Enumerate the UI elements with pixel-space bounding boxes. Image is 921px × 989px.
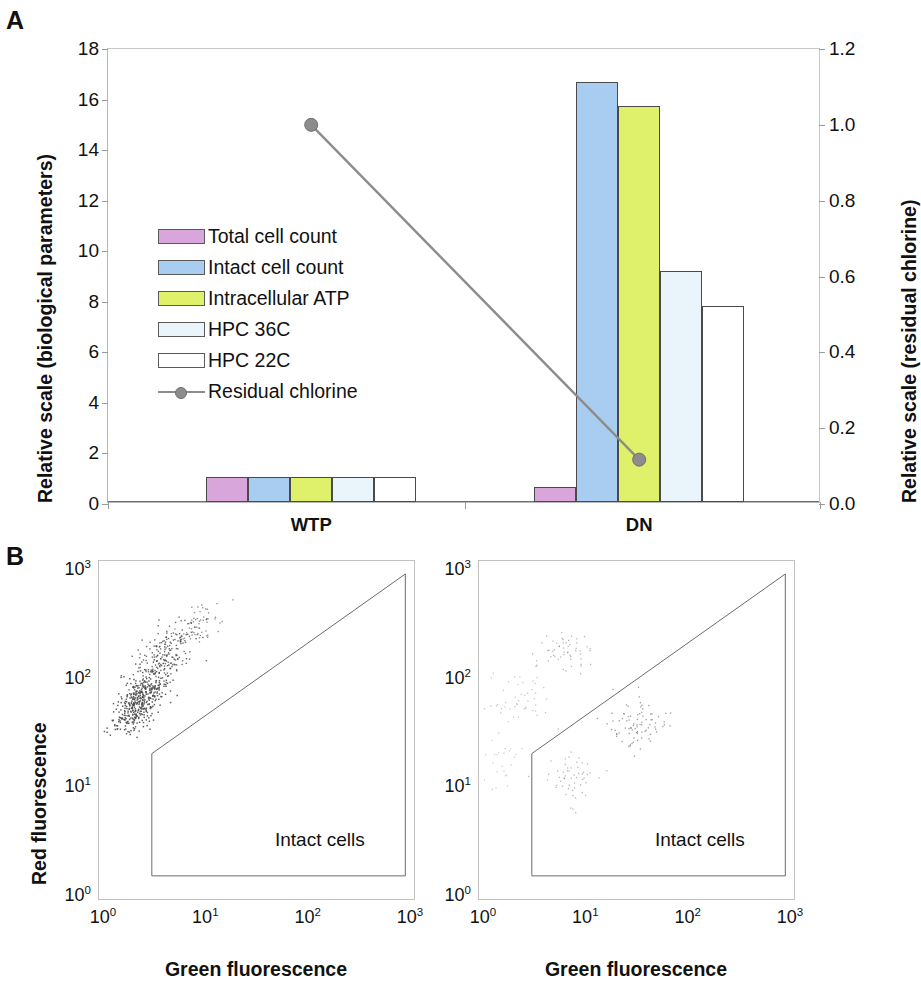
bar-dn-total-cell-count bbox=[534, 487, 576, 502]
scatter-dn-canvas bbox=[479, 561, 796, 901]
y-tick-mark-right bbox=[819, 125, 825, 126]
y-tick-label-right: 0.8 bbox=[829, 190, 855, 212]
legend-item-residual-chlorine: Residual chlorine bbox=[158, 376, 358, 407]
legend-item-hpc-22c: HPC 22C bbox=[158, 345, 358, 376]
scatter-y-tick-label: 102 bbox=[445, 667, 471, 689]
y-tick-mark-left bbox=[102, 453, 108, 454]
legend-label: HPC 36C bbox=[208, 318, 290, 341]
y-tick-mark-left bbox=[102, 352, 108, 353]
y-tick-label-left: 2 bbox=[88, 442, 99, 464]
y-tick-mark-left bbox=[102, 150, 108, 151]
y-tick-mark-right bbox=[819, 428, 825, 429]
bar-dn-intact-cell-count bbox=[576, 82, 618, 502]
bar-wtp-hpc-22c bbox=[374, 477, 416, 502]
scatter-points bbox=[104, 599, 234, 738]
legend-color-swatch bbox=[158, 291, 205, 306]
y-tick-mark-left bbox=[102, 100, 108, 101]
y-tick-label-left: 16 bbox=[78, 89, 99, 111]
panel-a-left-axis-title: Relative scale (biological parameters) bbox=[34, 154, 57, 503]
y-tick-mark-left bbox=[102, 49, 108, 50]
scatter-points bbox=[484, 632, 671, 813]
bar-dn-hpc-36c bbox=[660, 271, 702, 502]
scatter-y-tick-label: 100 bbox=[65, 884, 91, 906]
scatter-y-tick-label: 101 bbox=[445, 775, 471, 797]
legend-item-hpc-36c: HPC 36C bbox=[158, 314, 358, 345]
residual-chlorine-marker bbox=[305, 118, 318, 131]
legend-line-swatch bbox=[158, 384, 205, 399]
panel-a: A Relative scale (biological parameters)… bbox=[0, 0, 905, 545]
y-tick-label-left: 18 bbox=[78, 38, 99, 60]
scatter-plot-dn: Intact cells 100101102103 100101102103 bbox=[478, 560, 795, 900]
y-tick-label-left: 4 bbox=[88, 392, 99, 414]
legend-label: HPC 22C bbox=[208, 349, 290, 372]
legend-color-swatch bbox=[158, 353, 205, 368]
y-tick-mark-left bbox=[102, 403, 108, 404]
scatter-wtp-x-axis-title: Green fluorescence bbox=[165, 958, 347, 981]
y-tick-mark-right bbox=[819, 49, 825, 50]
scatter-y-tick-label: 100 bbox=[445, 884, 471, 906]
y-tick-label-left: 8 bbox=[88, 291, 99, 313]
scatter-x-tick-label: 102 bbox=[294, 906, 320, 928]
panel-b: B Red fluorescence Intact cells 10010110… bbox=[0, 540, 905, 989]
category-separator-tick bbox=[108, 502, 109, 509]
panel-a-legend: Total cell countIntact cell countIntrace… bbox=[158, 221, 358, 407]
scatter-y-tick-label: 103 bbox=[65, 558, 91, 580]
panel-a-plot-area: 024681012141618 0.00.20.40.60.81.01.2 WT… bbox=[107, 48, 820, 503]
panel-b-letter: B bbox=[6, 542, 24, 571]
bar-wtp-hpc-36c bbox=[332, 477, 374, 502]
y-tick-label-right: 0.6 bbox=[829, 266, 855, 288]
category-separator-tick bbox=[465, 502, 466, 509]
legend-item-total-cell-count: Total cell count bbox=[158, 221, 358, 252]
y-tick-mark-left bbox=[102, 302, 108, 303]
category-label-wtp: WTP bbox=[291, 514, 332, 536]
y-tick-label-right: 0.4 bbox=[829, 341, 855, 363]
scatter-wtp-canvas bbox=[99, 561, 416, 901]
panel-a-letter: A bbox=[6, 6, 24, 35]
legend-item-intact-cell-count: Intact cell count bbox=[158, 252, 358, 283]
scatter-x-tick-label: 103 bbox=[777, 906, 803, 928]
scatter-x-tick-label: 101 bbox=[192, 906, 218, 928]
y-tick-mark-right bbox=[819, 201, 825, 202]
y-tick-label-right: 0.0 bbox=[829, 493, 855, 515]
y-tick-label-left: 10 bbox=[78, 240, 99, 262]
category-separator-tick bbox=[820, 502, 821, 509]
legend-label: Residual chlorine bbox=[208, 380, 358, 403]
y-tick-label-left: 12 bbox=[78, 190, 99, 212]
bar-dn-hpc-22c bbox=[702, 306, 744, 502]
y-tick-label-right: 1.2 bbox=[829, 38, 855, 60]
scatter-dn-gate-label: Intact cells bbox=[655, 829, 745, 851]
y-tick-mark-left bbox=[102, 251, 108, 252]
y-tick-mark-right bbox=[819, 277, 825, 278]
legend-color-swatch bbox=[158, 260, 205, 275]
scatter-left-y-axis-title: Red fluorescence bbox=[28, 722, 51, 885]
legend-color-swatch bbox=[158, 322, 205, 337]
y-tick-label-right: 1.0 bbox=[829, 114, 855, 136]
scatter-x-tick-label: 102 bbox=[674, 906, 700, 928]
y-tick-mark-right bbox=[819, 352, 825, 353]
scatter-y-tick-label: 102 bbox=[65, 667, 91, 689]
scatter-x-tick-label: 100 bbox=[90, 906, 116, 928]
scatter-plot-wtp: Intact cells 100101102103 100101102103 bbox=[98, 560, 415, 900]
legend-color-swatch bbox=[158, 229, 205, 244]
y-tick-label-left: 0 bbox=[88, 493, 99, 515]
y-tick-mark-left bbox=[102, 201, 108, 202]
scatter-x-tick-label: 100 bbox=[470, 906, 496, 928]
bar-wtp-intracellular-atp bbox=[290, 477, 332, 502]
bar-wtp-total-cell-count bbox=[206, 477, 248, 502]
scatter-dn-x-axis-title: Green fluorescence bbox=[545, 958, 727, 981]
legend-label: Total cell count bbox=[208, 225, 337, 248]
scatter-x-tick-label: 101 bbox=[572, 906, 598, 928]
legend-item-intracellular-atp: Intracellular ATP bbox=[158, 283, 358, 314]
legend-label: Intracellular ATP bbox=[208, 287, 350, 310]
scatter-y-tick-label: 101 bbox=[65, 775, 91, 797]
panel-a-right-axis-title: Relative scale (residual chlorine) bbox=[898, 200, 921, 503]
category-label-dn: DN bbox=[626, 514, 653, 536]
scatter-y-tick-label: 103 bbox=[445, 558, 471, 580]
legend-label: Intact cell count bbox=[208, 256, 344, 279]
y-tick-label-right: 0.2 bbox=[829, 417, 855, 439]
y-tick-label-left: 14 bbox=[78, 139, 99, 161]
bar-dn-intracellular-atp bbox=[618, 106, 660, 502]
bar-wtp-intact-cell-count bbox=[248, 477, 290, 502]
y-tick-label-left: 6 bbox=[88, 341, 99, 363]
